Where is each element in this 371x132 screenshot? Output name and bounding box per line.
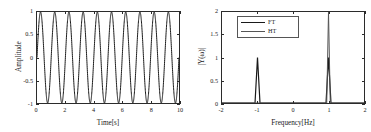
xaxis-tick-label: 2 bbox=[63, 107, 66, 113]
yaxis-tick-mark-right bbox=[177, 11, 180, 12]
time-domain-panel: 0246810-1-0.500.51 Time[s] Amplitude bbox=[0, 0, 186, 132]
yaxis-tick-mark bbox=[221, 81, 224, 82]
xaxis-tick-label: 8 bbox=[150, 107, 153, 113]
xaxis-tick-mark bbox=[365, 101, 366, 104]
xaxis-tick-mark bbox=[329, 101, 330, 104]
legend-swatch-ht bbox=[241, 31, 265, 32]
yaxis-tick-mark-right bbox=[362, 104, 365, 105]
xaxis-tick-mark bbox=[151, 101, 152, 104]
yaxis-tick-mark-right bbox=[362, 34, 365, 35]
yaxis-tick-mark bbox=[221, 58, 224, 59]
time-domain-plot-area bbox=[36, 11, 180, 104]
xaxis-tick-label: 10 bbox=[177, 107, 183, 113]
xaxis-tick-mark-top bbox=[122, 11, 123, 14]
legend-swatch-ft bbox=[241, 22, 265, 23]
frequency-domain-yaxis-title: |Y(ω)| bbox=[199, 27, 206, 87]
frequency-domain-xaxis-title: Frequency[Hz] bbox=[271, 120, 315, 127]
xaxis-tick-label: -1 bbox=[254, 107, 259, 113]
sine-wave-line bbox=[37, 12, 179, 103]
xaxis-tick-label: 1 bbox=[327, 107, 330, 113]
xaxis-tick-mark bbox=[94, 101, 95, 104]
yaxis-tick-mark bbox=[221, 11, 224, 12]
xaxis-tick-label: 2 bbox=[363, 107, 366, 113]
legend-label-ft: FT bbox=[268, 19, 275, 25]
figure-canvas: 0246810-1-0.500.51 Time[s] Amplitude -2-… bbox=[0, 0, 371, 132]
yaxis-tick-mark-right bbox=[177, 58, 180, 59]
yaxis-tick-mark-right bbox=[362, 11, 365, 12]
xaxis-tick-mark-top bbox=[257, 11, 258, 14]
xaxis-tick-label: 6 bbox=[121, 107, 124, 113]
frequency-domain-legend: FT HT bbox=[237, 16, 299, 38]
yaxis-tick-mark-right bbox=[362, 58, 365, 59]
xaxis-tick-label: 4 bbox=[92, 107, 95, 113]
time-domain-yaxis-title: Amplitude bbox=[16, 27, 23, 87]
yaxis-tick-mark bbox=[221, 34, 224, 35]
xaxis-tick-mark bbox=[293, 101, 294, 104]
legend-label-ht: HT bbox=[268, 28, 276, 34]
spectrum-line-ft bbox=[222, 58, 364, 104]
xaxis-tick-mark-top bbox=[293, 11, 294, 14]
legend-entry-ft: FT bbox=[241, 19, 295, 26]
time-domain-series-layer bbox=[37, 12, 179, 103]
xaxis-tick-label: 0 bbox=[34, 107, 37, 113]
yaxis-tick-mark-right bbox=[177, 104, 180, 105]
yaxis-tick-label: 0 bbox=[195, 101, 218, 107]
xaxis-tick-mark-top bbox=[365, 11, 366, 14]
yaxis-tick-label: 2 bbox=[195, 8, 218, 14]
xaxis-tick-mark-top bbox=[65, 11, 66, 14]
xaxis-tick-mark bbox=[122, 101, 123, 104]
yaxis-tick-mark bbox=[36, 58, 39, 59]
xaxis-tick-mark bbox=[180, 101, 181, 104]
yaxis-tick-label: 1 bbox=[10, 8, 33, 14]
yaxis-tick-mark bbox=[221, 104, 224, 105]
xaxis-tick-mark-top bbox=[180, 11, 181, 14]
xaxis-tick-label: 0 bbox=[291, 107, 294, 113]
yaxis-tick-mark bbox=[36, 81, 39, 82]
yaxis-tick-label: -1 bbox=[10, 101, 33, 107]
xaxis-tick-mark-top bbox=[151, 11, 152, 14]
legend-entry-ht: HT bbox=[241, 28, 295, 35]
frequency-domain-panel: -2-101200.511.52 FT HT Frequency[Hz] |Y(… bbox=[185, 0, 371, 132]
xaxis-tick-mark-top bbox=[329, 11, 330, 14]
xaxis-tick-mark-top bbox=[94, 11, 95, 14]
xaxis-tick-label: -2 bbox=[218, 107, 223, 113]
yaxis-tick-mark-right bbox=[177, 81, 180, 82]
yaxis-tick-mark-right bbox=[362, 81, 365, 82]
time-domain-xaxis-title: Time[s] bbox=[97, 120, 120, 127]
yaxis-tick-mark-right bbox=[177, 34, 180, 35]
yaxis-tick-mark bbox=[36, 11, 39, 12]
yaxis-tick-mark bbox=[36, 34, 39, 35]
xaxis-tick-mark bbox=[65, 101, 66, 104]
xaxis-tick-mark bbox=[257, 101, 258, 104]
yaxis-tick-mark bbox=[36, 104, 39, 105]
